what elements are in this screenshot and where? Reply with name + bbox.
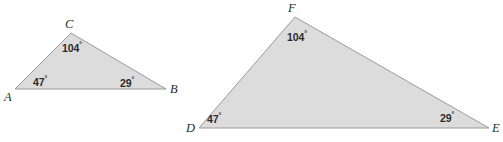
angle-label-e: 29°	[440, 111, 454, 123]
degree-symbol-icon: °	[451, 111, 454, 118]
geometry-figure-canvas	[0, 0, 503, 142]
angle-value-e: 29	[440, 112, 451, 124]
angle-label-b: 29°	[120, 76, 134, 88]
degree-symbol-icon: °	[79, 41, 82, 48]
angle-label-a: 47°	[33, 75, 47, 87]
angle-label-f: 104°	[287, 30, 307, 42]
vertex-label-b: B	[170, 83, 178, 96]
angle-value-c: 104	[62, 42, 79, 54]
vertex-label-e: E	[492, 122, 500, 135]
vertex-label-c: C	[65, 18, 73, 31]
vertex-label-a: A	[4, 91, 12, 104]
degree-symbol-icon: °	[44, 75, 47, 82]
angle-value-b: 29	[120, 77, 131, 89]
angle-label-c: 104°	[62, 41, 82, 53]
angle-value-f: 104	[287, 31, 304, 43]
angle-label-d: 47°	[207, 112, 221, 124]
vertex-label-d: D	[186, 122, 195, 135]
vertex-label-f: F	[288, 2, 296, 15]
degree-symbol-icon: °	[304, 30, 307, 37]
degree-symbol-icon: °	[131, 76, 134, 83]
angle-value-a: 47	[33, 76, 44, 88]
degree-symbol-icon: °	[218, 112, 221, 119]
angle-value-d: 47	[207, 113, 218, 125]
